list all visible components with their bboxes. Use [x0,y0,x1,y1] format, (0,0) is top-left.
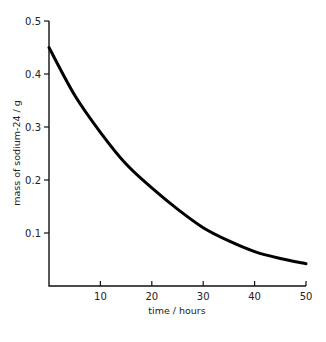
y-tick-label: 0.5 [25,16,41,27]
x-tick-label: 50 [300,291,313,302]
axes [49,21,306,286]
y-tick-label: 0.2 [25,175,41,186]
decay-curve [49,48,306,264]
x-tick-label: 10 [94,291,107,302]
y-axis-ticks: 0.10.20.30.40.5 [25,16,49,239]
x-tick-label: 20 [145,291,158,302]
y-tick-label: 0.3 [25,122,41,133]
decay-chart: 0.10.20.30.40.5 1020304050 time / hours … [0,0,326,342]
y-tick-label: 0.1 [25,228,41,239]
x-tick-label: 40 [248,291,261,302]
x-axis-label: time / hours [148,305,205,316]
y-axis-label: mass of sodium-24 / g [11,100,22,206]
x-axis-ticks: 1020304050 [94,281,312,302]
x-tick-label: 30 [197,291,210,302]
y-tick-label: 0.4 [25,69,41,80]
